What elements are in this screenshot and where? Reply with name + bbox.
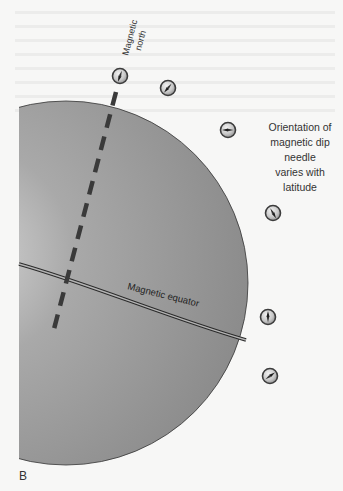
caption-line: magnetic dip	[250, 135, 343, 150]
earth-sphere	[0, 101, 248, 465]
magnetic-dip-diagram: Magnetic equator Magnetic north	[0, 0, 343, 491]
panel-label: B	[19, 469, 27, 483]
dip-needle-compass-icon	[161, 81, 176, 96]
caption-line: latitude	[250, 180, 343, 195]
dip-needle-compass-icon	[263, 369, 278, 384]
caption-line: Orientation of	[250, 120, 343, 135]
dip-needle-compass-icon	[266, 206, 281, 221]
caption-line: needle	[250, 150, 343, 165]
dip-needle-caption: Orientation of magnetic dip needle varie…	[250, 120, 343, 195]
caption-line: varies with	[250, 165, 343, 180]
dip-needle-compass-icon	[261, 310, 276, 325]
dip-needle-compass-icon	[113, 69, 128, 84]
dip-needle-compass-icon	[221, 123, 236, 138]
